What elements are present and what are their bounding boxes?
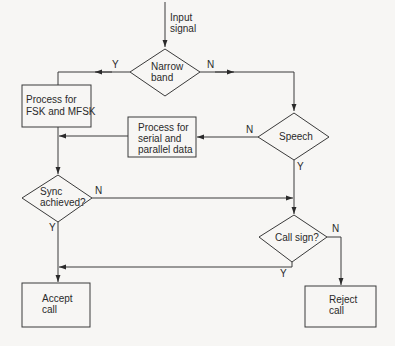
process-fsk-line2: FSK and MFSK (26, 106, 96, 117)
reject-line1: Reject (329, 294, 358, 305)
label-call-sign-n: N (332, 223, 339, 234)
label-narrow-band-y: Y (112, 59, 119, 70)
decision-call-sign: Call sign? (259, 215, 327, 262)
flowchart-canvas: Input signal Narrow band Y N Process for… (0, 0, 395, 346)
reject-call-box: Reject call (305, 286, 376, 327)
input-label-line1: Input (170, 12, 192, 23)
edge-call-sign-no (327, 237, 341, 285)
process-serial-line1: Process for (138, 122, 189, 133)
decision-speech: Speech (258, 113, 329, 160)
input-label-line2: signal (170, 23, 196, 34)
edge-call-sign-yes (59, 262, 292, 267)
decision-narrow-band: Narrow band (130, 49, 200, 96)
process-serial-line3: parallel data (138, 144, 193, 155)
label-speech-y: Y (297, 161, 304, 172)
label-narrow-band-n: N (207, 59, 214, 70)
label-call-sign-y: Y (280, 268, 287, 279)
narrow-band-line2: band (151, 72, 173, 83)
call-sign-line1: Call sign? (275, 232, 319, 243)
sync-line1: Sync (40, 186, 62, 197)
process-serial-line2: serial and (138, 133, 181, 144)
process-serial-parallel-box: Process for serial and parallel data (128, 117, 196, 157)
speech-line1: Speech (279, 131, 313, 142)
edge-narrow-band-yes (58, 72, 130, 85)
accept-call-box: Accept call (22, 283, 90, 327)
accept-line2: call (42, 304, 57, 315)
process-fsk-mfsk-box: Process for FSK and MFSK (22, 85, 96, 127)
label-sync-y: Y (49, 222, 56, 233)
process-fsk-line1: Process for (26, 94, 77, 105)
sync-line2: achieved? (40, 197, 86, 208)
label-speech-n: N (246, 124, 253, 135)
decision-sync-achieved: Sync achieved? (22, 175, 92, 222)
edge-narrow-band-no (200, 72, 294, 111)
label-sync-n: N (95, 185, 102, 196)
accept-line1: Accept (42, 293, 73, 304)
reject-line2: call (329, 305, 344, 316)
narrow-band-line1: Narrow (151, 61, 184, 72)
